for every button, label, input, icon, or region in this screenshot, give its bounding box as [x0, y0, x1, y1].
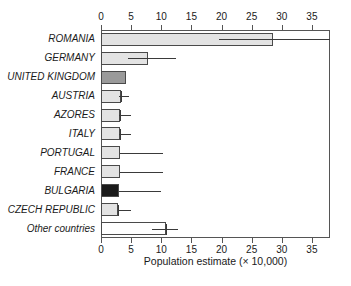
x-tick-label-30: 30: [276, 244, 287, 255]
bar-row: [101, 49, 330, 68]
x-tick-label-20: 20: [216, 11, 227, 22]
x-tick-label-5: 5: [128, 11, 134, 22]
error-cap: [166, 224, 167, 235]
x-tick-35: [312, 238, 313, 243]
bar-portugal: [101, 146, 120, 159]
error-cap: [121, 91, 122, 102]
bar-united-kingdom: [101, 71, 126, 84]
x-tick-label-15: 15: [186, 244, 197, 255]
bar-azores: [101, 109, 120, 122]
error-cap: [118, 205, 119, 216]
horizontal-bar-chart: 05101520253035 05101520253035 ROMANIAGER…: [0, 0, 351, 286]
error-cap: [120, 129, 121, 140]
bar-row: [101, 219, 330, 238]
x-tick-label-35: 35: [306, 11, 317, 22]
category-label-france: FRANCE: [54, 166, 95, 178]
x-tick-30: [282, 238, 283, 243]
x-tick-label-0: 0: [98, 11, 104, 22]
x-tick-label-0: 0: [98, 244, 104, 255]
bars-layer: [101, 30, 330, 238]
error-cap: [120, 110, 121, 121]
x-tick-label-25: 25: [246, 244, 257, 255]
bar-row: [101, 181, 330, 200]
error-bar-czech-republic: [118, 210, 131, 211]
category-label-romania: ROMANIA: [48, 33, 95, 45]
bar-italy: [101, 127, 120, 140]
category-label-bulgaria: BULGARIA: [44, 185, 95, 197]
bar-row: [101, 106, 330, 125]
category-label-italy: ITALY: [69, 128, 95, 140]
category-label-other-countries: Other countries: [27, 223, 95, 235]
error-bar-romania: [219, 39, 330, 40]
x-tick-15: [191, 238, 192, 243]
x-axis-title: Population estimate (× 10,000): [101, 255, 330, 267]
category-axis-labels: ROMANIAGERMANYUNITED KINGDOMAUSTRIAAZORE…: [0, 30, 98, 238]
x-tick-20: [222, 238, 223, 243]
category-label-united-kingdom: UNITED KINGDOM: [7, 71, 95, 83]
bar-france: [101, 165, 120, 178]
category-label-austria: AUSTRIA: [52, 90, 95, 102]
x-tick-label-35: 35: [306, 244, 317, 255]
category-label-czech-republic: CZECH REPUBLIC: [8, 204, 95, 216]
bar-row: [101, 125, 330, 144]
error-bar-germany: [128, 58, 176, 59]
bar-row: [101, 162, 330, 181]
x-tick-10: [161, 238, 162, 243]
bottom-axis: 05101520253035: [101, 238, 330, 239]
bar-czech-republic: [101, 203, 118, 216]
bar-bulgaria: [101, 184, 119, 197]
error-bar-france: [120, 172, 163, 173]
bar-row: [101, 87, 330, 106]
x-tick-0: [101, 238, 102, 243]
x-tick-label-15: 15: [186, 11, 197, 22]
x-tick-25: [252, 238, 253, 243]
error-bar-bulgaria: [119, 191, 161, 192]
bar-row: [101, 30, 330, 49]
x-tick-5: [131, 238, 132, 243]
category-label-portugal: PORTUGAL: [40, 147, 95, 159]
category-label-azores: AZORES: [54, 109, 95, 121]
x-tick-label-25: 25: [246, 11, 257, 22]
x-tick-label-10: 10: [156, 244, 167, 255]
error-bar-portugal: [120, 153, 163, 154]
bar-row: [101, 200, 330, 219]
x-tick-label-20: 20: [216, 244, 227, 255]
bar-row: [101, 143, 330, 162]
x-tick-label-30: 30: [276, 11, 287, 22]
x-tick-label-10: 10: [156, 11, 167, 22]
bar-row: [101, 68, 330, 87]
x-tick-label-5: 5: [128, 244, 134, 255]
category-label-germany: GERMANY: [44, 52, 95, 64]
